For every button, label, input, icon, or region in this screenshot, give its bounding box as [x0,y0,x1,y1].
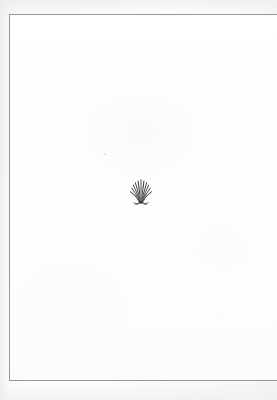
scan-bottom-shadow [0,380,277,400]
page-leaf [9,14,277,381]
paper-texture [10,15,277,380]
scanned-page-image [0,0,277,400]
